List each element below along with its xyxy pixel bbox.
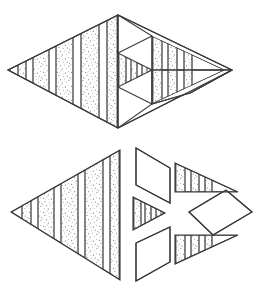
exploded-right-parallelogram	[189, 190, 252, 235]
exploded-left-striped-triangle	[133, 192, 165, 236]
exploded-rhombus-panel	[11, 144, 252, 286]
exploded-large-striped-triangle	[11, 144, 120, 286]
assembled-rhombus-panel	[8, 8, 232, 136]
exploded-upper-parallelogram	[136, 148, 170, 203]
exploded-lower-right-striped-triangle	[175, 230, 238, 272]
assembled-left-striped-triangle	[8, 8, 118, 136]
figure-root: Geometric dissection diagram Two line-dr…	[0, 0, 265, 292]
dissection-diagram	[0, 0, 265, 292]
